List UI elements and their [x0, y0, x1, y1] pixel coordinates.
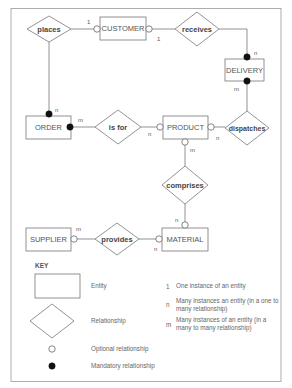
legend-entity-label: Entity	[91, 282, 108, 290]
legend-mandatory-label: Mandatory relationship	[91, 362, 155, 370]
optional-marker-icon	[71, 236, 77, 242]
legend-optional-icon	[49, 346, 55, 352]
relationship-label: comprises	[166, 181, 204, 190]
relationship-label: provides	[101, 235, 132, 244]
cardinality-label: 1	[157, 36, 161, 42]
legend-title: KEY	[35, 262, 49, 269]
cardinality-label: n	[216, 135, 219, 141]
legend-optional-label: Optional relationship	[91, 345, 149, 353]
entity-label: ORDER	[35, 123, 63, 132]
entity-supplier: SUPPLIER	[26, 228, 71, 251]
legend-n-text: Many instances an entity (in a one to	[176, 297, 279, 305]
entity-label: MATERIAL	[167, 235, 204, 244]
cardinality-label: n	[55, 107, 58, 113]
mandatory-marker-icon	[46, 111, 52, 117]
relationship-dispatches: dispatches	[225, 111, 269, 145]
optional-marker-icon	[94, 26, 100, 32]
cardinality-labels: 1 1 n m n m n n m n n m	[55, 19, 257, 252]
entity-order: ORDER	[26, 116, 71, 139]
relationship-is-for: is for	[95, 110, 141, 144]
optional-marker-icon	[182, 222, 188, 228]
entity-delivery: DELIVERY	[225, 59, 264, 81]
cardinality-label: m	[190, 147, 195, 153]
entity-label: DELIVERY	[226, 66, 263, 75]
entity-label: CUSTOMER	[102, 24, 145, 33]
entity-customer: CUSTOMER	[100, 17, 146, 40]
relationship-label: dispatches	[229, 125, 266, 133]
cardinality-label: n	[154, 246, 157, 252]
legend-n-symbol: n	[166, 301, 170, 308]
mandatory-marker-icon	[67, 124, 73, 130]
optional-marker-icon	[182, 139, 188, 145]
entity-product: PRODUCT	[163, 116, 208, 139]
optional-marker-icon	[146, 26, 152, 32]
relationship-label: places	[37, 25, 60, 34]
relationship-provides: provides	[95, 223, 139, 255]
legend-m-symbol: m	[166, 321, 171, 328]
relationship-label: is for	[109, 123, 127, 132]
cardinality-label: m	[76, 226, 81, 232]
legend-n-text: many relationship)	[176, 305, 227, 313]
cardinality-label: n	[175, 217, 178, 223]
relationship-places: places	[27, 16, 71, 42]
legend: KEY Entity Relationship Optional relatio…	[30, 262, 279, 370]
legend-m-text: many to many relationship)	[176, 324, 252, 332]
cardinality-label: n	[254, 50, 257, 56]
mandatory-marker-icon	[244, 78, 250, 84]
entity-label: SUPPLIER	[30, 235, 68, 244]
legend-one-symbol: 1	[166, 283, 170, 290]
cardinality-label: 1	[87, 19, 91, 25]
er-diagram: CUSTOMER DELIVERY ORDER PRODUCT SUPPLIER…	[0, 0, 292, 388]
legend-mandatory-icon	[49, 363, 55, 369]
legend-relationship-icon	[30, 304, 74, 338]
legend-one-text: One instance of an entity	[176, 282, 247, 290]
entity-material: MATERIAL	[162, 228, 208, 251]
cardinality-label: n	[148, 131, 151, 137]
optional-marker-icon	[157, 124, 163, 130]
entity-label: PRODUCT	[167, 123, 205, 132]
legend-relationship-label: Relationship	[91, 317, 126, 325]
mandatory-marker-icon	[244, 54, 250, 60]
cardinality-label: m	[78, 117, 83, 123]
cardinality-label: m	[234, 86, 239, 92]
optional-marker-icon	[156, 236, 162, 242]
optional-marker-icon	[208, 124, 214, 130]
relationship-comprises: comprises	[162, 166, 208, 204]
legend-m-text: Many instances of an entity (in a	[176, 316, 267, 324]
relationship-receives: receives	[175, 12, 219, 46]
relationship-label: receives	[182, 25, 212, 34]
legend-entity-icon	[35, 274, 80, 298]
